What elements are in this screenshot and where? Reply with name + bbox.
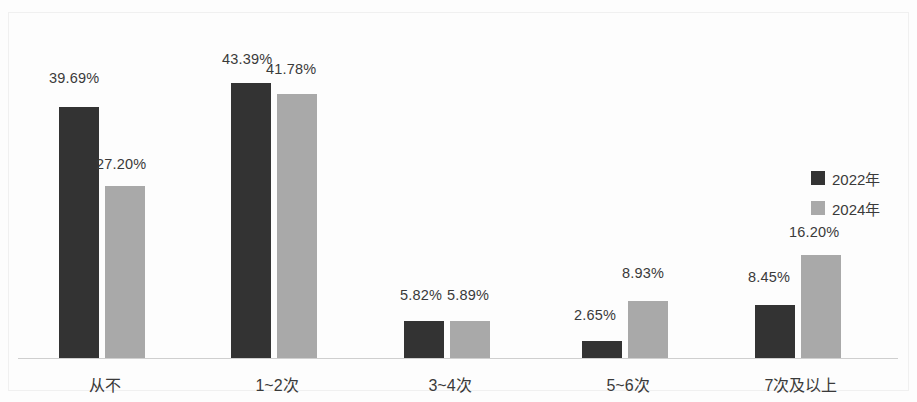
data-label-2024-0: 27.20% <box>96 156 146 172</box>
legend-label-2022: 2022年 <box>832 168 880 189</box>
legend-label-2024: 2024年 <box>832 198 880 219</box>
bar-2022年-1~2次[interactable] <box>231 83 271 358</box>
x-axis-label-2: 3~4次 <box>428 372 471 396</box>
x-axis-line <box>18 358 898 359</box>
bar-2024年-3~4次[interactable] <box>450 321 490 358</box>
plot-area: 39.69% 27.20% 43.39% 41.78% 5.82% 5.89% … <box>0 0 917 402</box>
data-label-2022-1: 43.39% <box>222 51 272 67</box>
data-label-2024-4: 16.20% <box>789 224 839 240</box>
bar-2024年-5~6次[interactable] <box>628 301 668 358</box>
data-label-2022-2: 5.82% <box>400 287 442 303</box>
data-label-2022-4: 8.45% <box>748 269 790 285</box>
legend-item-2022[interactable]: 2022年 <box>811 163 880 193</box>
bar-2022年-从不[interactable] <box>59 107 99 358</box>
x-axis-label-4: 7次及以上 <box>765 372 838 396</box>
bar-2024年-7次及以上[interactable] <box>801 255 841 358</box>
x-axis-label-1: 1~2次 <box>255 372 298 396</box>
legend-item-2024[interactable]: 2024年 <box>811 193 880 223</box>
data-label-2024-3: 8.93% <box>622 265 664 281</box>
legend-swatch-icon-2022 <box>811 171 825 185</box>
bar-2024年-1~2次[interactable] <box>277 94 317 358</box>
bar-2024年-从不[interactable] <box>105 186 145 358</box>
data-label-2022-3: 2.65% <box>574 307 616 323</box>
bar-2022年-5~6次[interactable] <box>582 341 622 358</box>
data-label-2022-0: 39.69% <box>49 70 99 86</box>
bar-2022年-3~4次[interactable] <box>404 321 444 358</box>
x-axis-label-3: 5~6次 <box>606 372 649 396</box>
legend-swatch-icon-2024 <box>811 201 825 215</box>
data-label-2024-2: 5.89% <box>447 287 489 303</box>
bar-chart: 39.69% 27.20% 43.39% 41.78% 5.82% 5.89% … <box>0 0 917 402</box>
legend: 2022年 2024年 <box>811 163 880 223</box>
x-axis-label-0: 从不 <box>89 372 121 396</box>
data-label-2024-1: 41.78% <box>266 61 316 77</box>
bar-2022年-7次及以上[interactable] <box>755 305 795 358</box>
